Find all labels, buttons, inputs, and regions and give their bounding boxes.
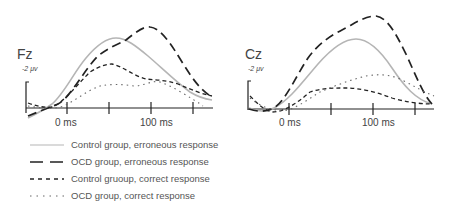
legend-item-control-correct: Control gruoup, correct response	[30, 173, 210, 184]
cz-y-axis	[248, 81, 251, 110]
fz-line-ocd-erroneous	[28, 27, 212, 116]
fz-panel: Fz -2 μv 0 ms 100 ms	[17, 27, 213, 128]
fz-tick-label-100ms: 100 ms	[140, 117, 173, 128]
legend-item-control-erroneous: Control group, erroneous response	[30, 139, 218, 150]
cz-panel: Cz -2 μv 0 ms 100 ms	[245, 16, 434, 128]
cz-tick-label-0ms: 0 ms	[279, 117, 301, 128]
cz-tick-label-100ms: 100 ms	[362, 117, 395, 128]
legend: Control group, erroneous response OCD gr…	[30, 139, 218, 201]
legend-item-ocd-erroneous: OCD group, erroneous response	[30, 156, 209, 167]
cz-line-ocd-erroneous	[249, 16, 432, 111]
erp-figure: Fz -2 μv 0 ms 100 ms Cz -2 μv	[0, 0, 451, 215]
cz-unit-label: -2 μv	[248, 65, 264, 73]
cz-channel-label: Cz	[245, 46, 262, 62]
fz-channel-label: Fz	[17, 46, 33, 62]
legend-label: Control gruoup, correct response	[71, 173, 210, 184]
fz-line-ocd-correct	[28, 82, 203, 109]
legend-label: OCD group, correct response	[71, 190, 195, 201]
legend-label: Control group, erroneous response	[71, 139, 218, 150]
fz-unit-label: -2 μv	[22, 65, 38, 73]
legend-item-ocd-correct: OCD group, correct response	[30, 190, 195, 201]
fz-tick-label-0ms: 0 ms	[55, 117, 77, 128]
legend-label: OCD group, erroneous response	[71, 156, 209, 167]
